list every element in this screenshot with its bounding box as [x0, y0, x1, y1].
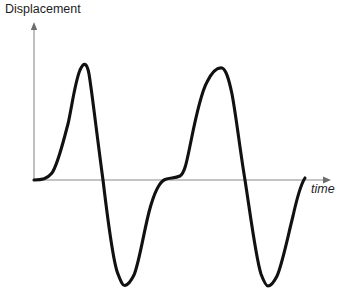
x-axis-label: time	[311, 182, 335, 196]
displacement-waveform	[34, 64, 305, 286]
displacement-time-graph	[0, 0, 343, 294]
y-axis-arrowhead	[31, 22, 37, 30]
y-axis-label: Displacement	[5, 2, 81, 16]
